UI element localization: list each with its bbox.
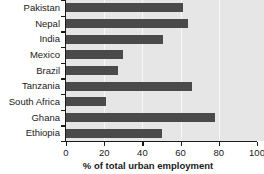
x-axis-tick-label: 100 [237, 147, 264, 158]
x-axis-line [65, 141, 257, 142]
bar [66, 35, 163, 44]
bar [66, 66, 118, 75]
gridline [219, 0, 220, 141]
y-axis-tick [61, 78, 65, 79]
x-axis-tick [181, 142, 182, 146]
x-axis-tick-label: 40 [122, 147, 162, 158]
category-label: Pakistan [0, 3, 60, 13]
x-axis-tick [66, 142, 67, 146]
y-axis-tick [61, 94, 65, 95]
plot-area-bleed [257, 0, 264, 141]
bar [66, 97, 106, 106]
category-label: Ethiopia [0, 128, 60, 138]
y-axis-tick [61, 0, 65, 1]
bar [66, 19, 188, 28]
x-axis-tick-label: 20 [84, 147, 124, 158]
category-axis-labels: PakistanNepalIndiaMexicoBrazilTanzaniaSo… [0, 0, 64, 141]
category-label: Nepal [0, 19, 60, 29]
category-label: India [0, 34, 60, 44]
y-axis-tick [61, 110, 65, 111]
x-axis-tick [104, 142, 105, 146]
y-axis-tick [61, 63, 65, 64]
y-axis-tick [61, 141, 65, 142]
x-axis-title: % of total urban employment [0, 160, 264, 171]
y-axis-line [65, 0, 66, 142]
x-axis-tick-label: 80 [199, 147, 239, 158]
y-axis-tick [61, 16, 65, 17]
y-axis-tick [61, 125, 65, 126]
y-axis-tick [61, 47, 65, 48]
category-label: Mexico [0, 50, 60, 60]
bar [66, 82, 192, 91]
bar [66, 50, 123, 59]
x-axis-tick [142, 142, 143, 146]
bar [66, 129, 162, 138]
x-axis-tick-label: 60 [161, 147, 201, 158]
bar [66, 3, 183, 12]
x-axis-tick [257, 142, 258, 146]
x-axis-tick-label: 0 [46, 147, 86, 158]
category-label: South Africa [0, 97, 60, 107]
bar-chart: PakistanNepalIndiaMexicoBrazilTanzaniaSo… [0, 0, 264, 174]
category-label: Brazil [0, 66, 60, 76]
category-label: Ghana [0, 113, 60, 123]
bar [66, 113, 215, 122]
category-label: Tanzania [0, 81, 60, 91]
y-axis-tick [61, 31, 65, 32]
x-axis-tick [219, 142, 220, 146]
plot-area [66, 0, 257, 141]
